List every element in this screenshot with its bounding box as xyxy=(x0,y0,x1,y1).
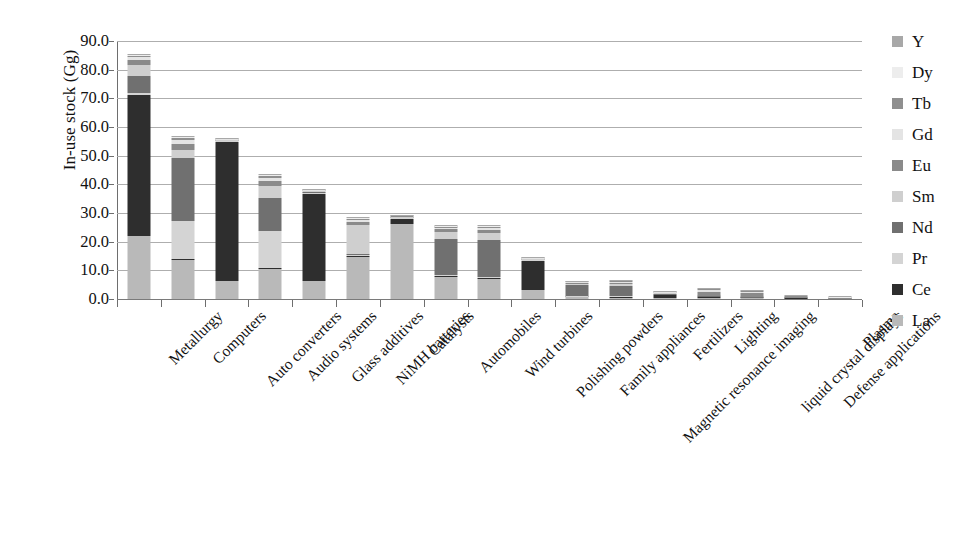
bar-segment[interactable] xyxy=(171,221,194,258)
bar-segment[interactable] xyxy=(434,226,457,227)
bar-segment[interactable] xyxy=(127,57,150,60)
bar-segment[interactable] xyxy=(347,256,370,257)
bar-segment[interactable] xyxy=(259,186,282,197)
bar-segment[interactable] xyxy=(697,298,720,299)
bar-segment[interactable] xyxy=(785,295,808,296)
bar-segment[interactable] xyxy=(741,293,764,296)
bar-segment[interactable] xyxy=(741,292,764,293)
bar-segment[interactable] xyxy=(785,297,808,298)
bar-segment[interactable] xyxy=(259,175,282,176)
bar-segment[interactable] xyxy=(478,227,501,228)
bar-group[interactable] xyxy=(511,41,555,299)
bar-group[interactable] xyxy=(599,41,643,299)
bar-segment[interactable] xyxy=(259,269,282,299)
bar-segment[interactable] xyxy=(434,239,457,275)
bar-segment[interactable] xyxy=(566,283,589,284)
bar-segment[interactable] xyxy=(609,284,632,285)
bar-segment[interactable] xyxy=(259,231,282,268)
bar-segment[interactable] xyxy=(434,275,457,276)
bar-segment[interactable] xyxy=(741,291,764,292)
legend-item[interactable]: Y xyxy=(892,26,958,57)
bar-group[interactable] xyxy=(292,41,336,299)
bar-segment[interactable] xyxy=(653,291,676,292)
bar-segment[interactable] xyxy=(522,257,545,258)
bar-group[interactable] xyxy=(161,41,205,299)
bar-segment[interactable] xyxy=(785,298,808,299)
bar-segment[interactable] xyxy=(171,259,194,261)
bar-segment[interactable] xyxy=(522,261,545,290)
bar-segment[interactable] xyxy=(347,219,370,220)
bar-segment[interactable] xyxy=(127,56,150,58)
bar-segment[interactable] xyxy=(741,290,764,291)
bar-group[interactable] xyxy=(774,41,818,299)
bar-segment[interactable] xyxy=(697,288,720,289)
bar-segment[interactable] xyxy=(478,225,501,226)
bar-segment[interactable] xyxy=(303,189,326,190)
bar-segment[interactable] xyxy=(609,297,632,298)
bar-group[interactable] xyxy=(205,41,249,299)
bar-segment[interactable] xyxy=(653,295,676,298)
bar-segment[interactable] xyxy=(478,277,501,278)
bar-segment[interactable] xyxy=(829,298,852,299)
bar-group[interactable] xyxy=(380,41,424,299)
bar-segment[interactable] xyxy=(215,141,238,142)
bar-segment[interactable] xyxy=(434,232,457,239)
bar-group[interactable] xyxy=(643,41,687,299)
bar-segment[interactable] xyxy=(215,142,238,281)
bar-segment[interactable] xyxy=(609,298,632,299)
bar-segment[interactable] xyxy=(347,255,370,256)
bar-group[interactable] xyxy=(731,41,775,299)
bar-segment[interactable] xyxy=(347,220,370,222)
legend-item[interactable]: Ce xyxy=(892,274,958,305)
bar-segment[interactable] xyxy=(478,279,501,299)
bar-segment[interactable] xyxy=(434,228,457,230)
bar-segment[interactable] xyxy=(478,278,501,279)
bar-segment[interactable] xyxy=(697,290,720,291)
bar-segment[interactable] xyxy=(434,225,457,226)
bar-segment[interactable] xyxy=(215,140,238,141)
bar-group[interactable] xyxy=(248,41,292,299)
bar-segment[interactable] xyxy=(434,226,457,227)
bar-segment[interactable] xyxy=(347,222,370,225)
bar-segment[interactable] xyxy=(609,286,632,297)
bar-segment[interactable] xyxy=(522,259,545,260)
bar-group[interactable] xyxy=(687,41,731,299)
legend-item[interactable]: Nd xyxy=(892,212,958,243)
bar-segment[interactable] xyxy=(609,280,632,281)
bar-segment[interactable] xyxy=(347,225,370,254)
bar-segment[interactable] xyxy=(171,158,194,221)
bar-segment[interactable] xyxy=(697,289,720,290)
bar-segment[interactable] xyxy=(434,277,457,299)
bar-segment[interactable] xyxy=(478,240,501,277)
bar-segment[interactable] xyxy=(127,60,150,64)
bar-segment[interactable] xyxy=(127,95,150,235)
legend-item[interactable]: Eu xyxy=(892,150,958,181)
bar-segment[interactable] xyxy=(566,296,589,297)
bar-group[interactable] xyxy=(336,41,380,299)
bar-group[interactable] xyxy=(555,41,599,299)
bar-segment[interactable] xyxy=(347,257,370,299)
bar-segment[interactable] xyxy=(171,138,194,140)
bar-segment[interactable] xyxy=(259,178,282,181)
bar-segment[interactable] xyxy=(347,217,370,218)
bar-segment[interactable] xyxy=(434,229,457,232)
legend-item[interactable]: Sm xyxy=(892,181,958,212)
legend-item[interactable]: Tb xyxy=(892,88,958,119)
bar-segment[interactable] xyxy=(478,233,501,240)
bar-group[interactable] xyxy=(468,41,512,299)
bar-segment[interactable] xyxy=(259,268,282,269)
legend-item[interactable]: Dy xyxy=(892,57,958,88)
legend-item[interactable]: La xyxy=(892,305,958,336)
bar-segment[interactable] xyxy=(434,276,457,277)
legend-item[interactable]: Pr xyxy=(892,243,958,274)
bar-segment[interactable] xyxy=(215,138,238,139)
bar-segment[interactable] xyxy=(303,192,326,193)
bar-segment[interactable] xyxy=(566,284,589,285)
bar-segment[interactable] xyxy=(390,218,413,219)
bar-segment[interactable] xyxy=(566,285,589,296)
bar-segment[interactable] xyxy=(303,281,326,299)
bar-segment[interactable] xyxy=(697,292,720,296)
bar-segment[interactable] xyxy=(127,55,150,56)
bar-segment[interactable] xyxy=(171,140,194,144)
bar-segment[interactable] xyxy=(390,217,413,218)
